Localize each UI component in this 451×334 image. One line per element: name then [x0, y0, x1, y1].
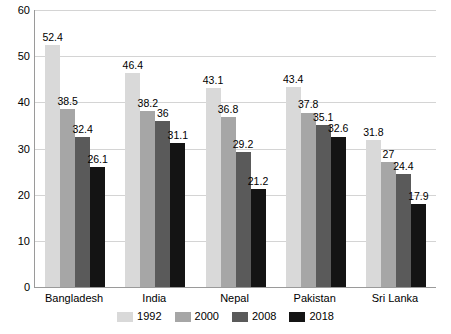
bar-group: 43.437.835.132.6 — [286, 10, 346, 287]
bar-value-label: 26.1 — [81, 154, 115, 165]
bar-value-label: 27 — [371, 149, 405, 160]
bar[interactable] — [301, 113, 316, 288]
bar[interactable] — [206, 88, 221, 287]
bar[interactable] — [331, 137, 346, 288]
bar[interactable] — [381, 162, 396, 287]
bar-value-label: 17.9 — [401, 191, 435, 202]
bar[interactable] — [366, 140, 381, 287]
legend: 1992200020082018 — [0, 311, 451, 322]
bar-group: 31.82724.417.9 — [366, 10, 426, 287]
bar-value-label: 31.1 — [161, 130, 195, 141]
bar-value-label: 37.8 — [291, 99, 325, 110]
bar-group: 43.136.829.221.2 — [206, 10, 266, 287]
plot-area: 52.438.532.426.146.438.23631.143.136.829… — [34, 10, 436, 288]
legend-item[interactable]: 2008 — [232, 311, 276, 322]
bar-value-label: 38.5 — [51, 96, 85, 107]
legend-label: 2000 — [195, 311, 219, 322]
legend-swatch — [117, 312, 133, 322]
y-tick-label: 60 — [2, 5, 30, 16]
bar-value-label: 52.4 — [36, 32, 70, 43]
bar[interactable] — [170, 143, 185, 287]
bar-value-label: 21.2 — [241, 176, 275, 187]
legend-label: 1992 — [137, 311, 161, 322]
category-label: Sri Lanka — [345, 292, 445, 304]
legend-label: 2018 — [309, 311, 333, 322]
legend-item[interactable]: 1992 — [117, 311, 161, 322]
legend-label: 2008 — [252, 311, 276, 322]
bar-chart: 0102030405060 52.438.532.426.146.438.236… — [0, 0, 451, 334]
bar-value-label: 32.4 — [66, 124, 100, 135]
bar[interactable] — [286, 87, 301, 287]
bar-value-label: 35.1 — [306, 112, 340, 123]
bar-group: 46.438.23631.1 — [125, 10, 185, 287]
bar-value-label: 36.8 — [211, 104, 245, 115]
bar-value-label: 32.6 — [321, 123, 355, 134]
bar[interactable] — [251, 189, 266, 287]
y-tick-label: 50 — [2, 51, 30, 62]
bar-value-label: 43.4 — [276, 74, 310, 85]
bar[interactable] — [90, 167, 105, 287]
legend-swatch — [232, 312, 248, 322]
bar[interactable] — [60, 109, 75, 287]
bar-group: 52.438.532.426.1 — [45, 10, 105, 287]
y-tick-label: 10 — [2, 236, 30, 247]
legend-item[interactable]: 2018 — [289, 311, 333, 322]
bar-value-label: 46.4 — [116, 60, 150, 71]
bar[interactable] — [411, 204, 426, 287]
bar-value-label: 24.4 — [386, 161, 420, 172]
y-tick-label: 20 — [2, 190, 30, 201]
y-tick-label: 30 — [2, 144, 30, 155]
bar-value-label: 36 — [146, 108, 180, 119]
bar[interactable] — [140, 111, 155, 287]
bar[interactable] — [45, 45, 60, 287]
y-axis-tick-labels: 0102030405060 — [0, 10, 30, 288]
legend-item[interactable]: 2000 — [175, 311, 219, 322]
bar-value-label: 43.1 — [196, 75, 230, 86]
bar-value-label: 29.2 — [226, 139, 260, 150]
legend-swatch — [289, 312, 305, 322]
y-tick-label: 40 — [2, 97, 30, 108]
bar-value-label: 31.8 — [356, 127, 390, 138]
legend-swatch — [175, 312, 191, 322]
bar[interactable] — [155, 121, 170, 287]
bar[interactable] — [236, 152, 251, 287]
bar[interactable] — [316, 125, 331, 287]
